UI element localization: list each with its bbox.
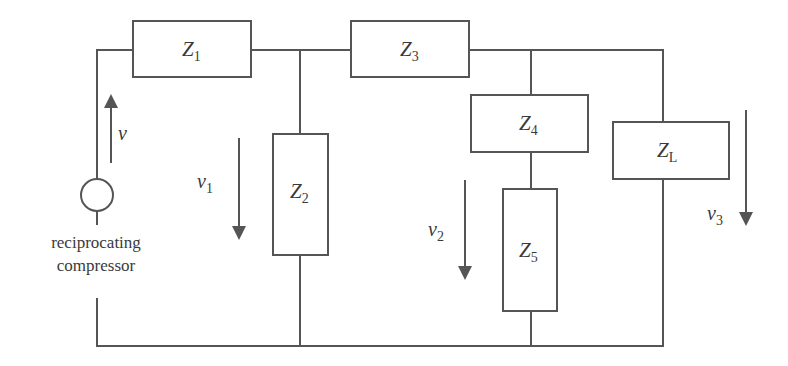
impedance-z5: Z5: [503, 189, 557, 311]
voltage-arrow-v2: v2: [428, 180, 472, 280]
voltage-arrow-v1: v1: [197, 138, 246, 240]
source-circle-icon: [81, 179, 113, 211]
source-label-line2: compressor: [57, 256, 136, 275]
impedance-z1: Z1: [133, 21, 251, 77]
impedance-z4: Z4: [471, 95, 588, 152]
impedance-z3: Z3: [351, 21, 469, 77]
svg-text:v1: v1: [197, 170, 213, 196]
voltage-arrow-v: v: [104, 94, 127, 163]
svg-text:v2: v2: [428, 218, 444, 244]
circuit-diagram: reciprocating compressor Z1 Z2 Z3 Z4 Z5 …: [0, 0, 788, 366]
wire-left-top: [97, 50, 133, 179]
impedance-z2: Z2: [273, 134, 328, 255]
wire-left-bottom: [97, 179, 663, 346]
impedance-zl: ZL: [613, 122, 729, 179]
arrow-up-icon: [104, 94, 118, 108]
arrow-down-icon: [232, 226, 246, 240]
arrow-down-icon: [458, 266, 472, 280]
svg-text:v3: v3: [707, 202, 723, 228]
source-label-line1: reciprocating: [51, 233, 141, 252]
svg-text:v: v: [118, 122, 127, 144]
arrow-down-icon: [739, 212, 753, 226]
